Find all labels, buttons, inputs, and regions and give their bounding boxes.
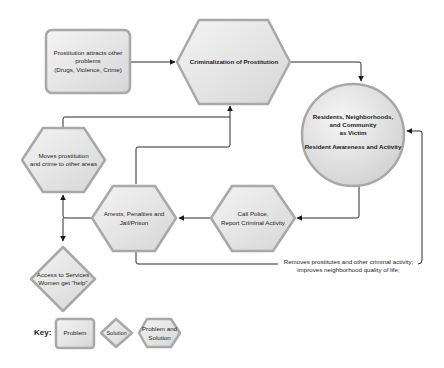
moves-label: Moves prostitution and crime to other ar… (22, 128, 105, 192)
key-label: Key: (34, 328, 51, 337)
problem-box-label: Prostitution attracts other problems (Dr… (46, 30, 130, 93)
criminalization-label: Criminalization of Prostitution (180, 20, 288, 104)
key-solution-label: Solution (101, 319, 132, 348)
residents-subtitle: Resident Awareness and Activity (302, 142, 404, 152)
key-problem-solution-label: Problem and Solution (139, 319, 180, 348)
edge-criminalization-to-residents (291, 62, 361, 81)
key-problem-label: Problem (56, 319, 94, 348)
residents-title: Residents, Neighborhoods, and Community … (302, 112, 404, 138)
callpolice-label: Call Police, Report Criminal Activity (211, 186, 295, 251)
edge-moves-to-criminalization (63, 117, 230, 127)
edge-arrests-to-residents (136, 251, 278, 264)
removes-caption: Removes prostitutes and other criminal a… (276, 258, 421, 275)
arrests-label: Arrests, Penalties and Jail/Prison (92, 186, 176, 251)
access-label: Access to Services Women get "help" (28, 264, 98, 294)
edge-residents-to-callpolice (297, 186, 359, 218)
edge-arrests-to-criminalization (136, 106, 230, 184)
edge-arrests-branch (63, 195, 92, 218)
